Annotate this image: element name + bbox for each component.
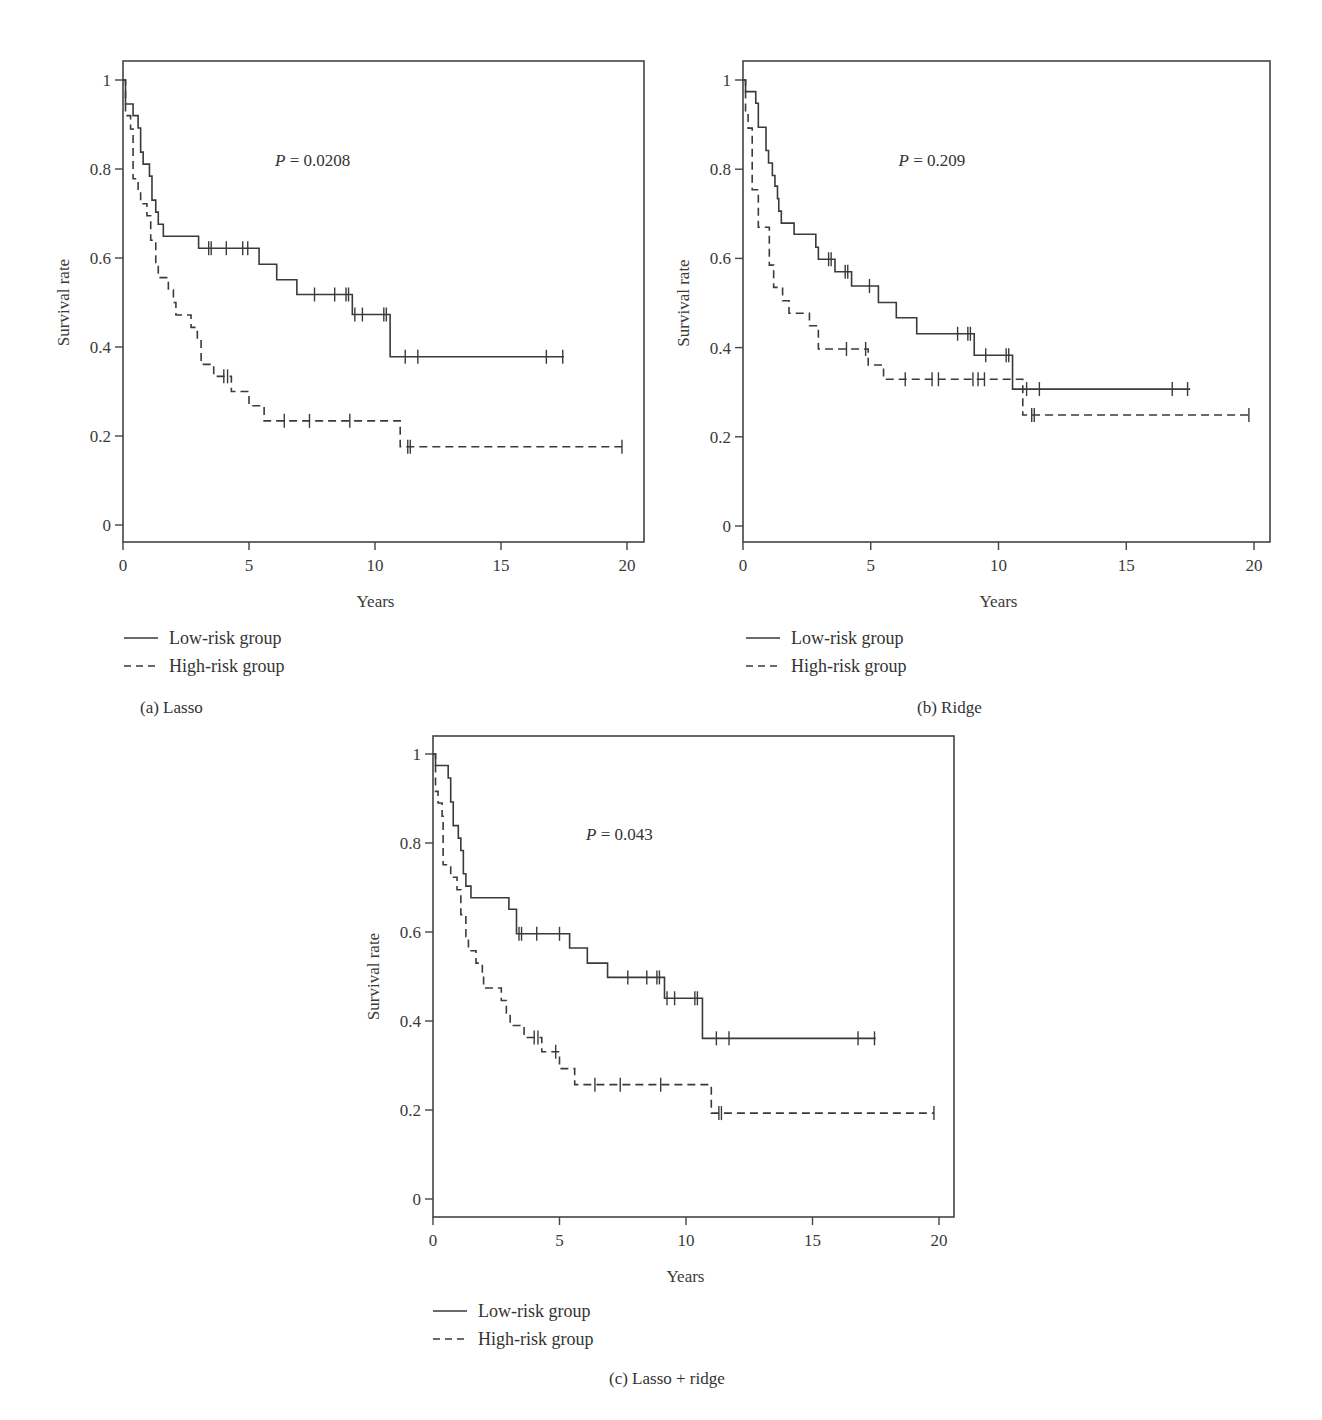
y-tick-label: 0.6 (400, 923, 421, 942)
y-tick-label: 1 (723, 71, 732, 90)
y-tick-label: 1 (413, 745, 422, 764)
y-tick-label: 0.8 (710, 160, 731, 179)
x-axis-title: Years (980, 592, 1018, 611)
x-tick-label: 20 (619, 556, 636, 575)
legend: Low-risk groupHigh-risk group (433, 1301, 594, 1349)
legend: Low-risk groupHigh-risk group (124, 628, 285, 676)
legend-low-risk-label: Low-risk group (169, 628, 281, 648)
y-tick-label: 0.2 (710, 428, 731, 447)
x-tick-label: 10 (678, 1231, 695, 1250)
legend: Low-risk groupHigh-risk group (746, 628, 907, 676)
y-tick-label: 0 (413, 1190, 422, 1209)
y-tick-label: 0.4 (710, 339, 732, 358)
low-risk-curve (743, 80, 1190, 389)
chart-panel-c: 00.20.40.60.8105101520YearsSurvival rate… (364, 736, 954, 1388)
chart-panel-b: 00.20.40.60.8105101520YearsSurvival rate… (674, 61, 1270, 717)
x-axis-title: Years (357, 592, 395, 611)
plot-frame (743, 61, 1270, 542)
panel-caption: (b) Ridge (917, 698, 982, 717)
x-tick-label: 20 (1246, 556, 1263, 575)
p-value-annotation: P = 0.0208 (274, 151, 350, 170)
x-tick-label: 5 (867, 556, 876, 575)
x-tick-label: 10 (990, 556, 1007, 575)
p-value-annotation: P = 0.209 (898, 151, 966, 170)
x-tick-label: 5 (245, 556, 254, 575)
panel-caption: (c) Lasso + ridge (609, 1369, 725, 1388)
legend-high-risk-label: High-risk group (478, 1329, 594, 1349)
y-axis-title: Survival rate (674, 259, 693, 346)
y-tick-label: 0.6 (710, 249, 731, 268)
y-tick-label: 0 (103, 516, 112, 535)
y-tick-label: 0 (723, 517, 732, 536)
chart-panel-a: 00.20.40.60.8105101520YearsSurvival rate… (54, 61, 644, 717)
x-tick-label: 5 (555, 1231, 564, 1250)
x-tick-label: 0 (739, 556, 748, 575)
plot-frame (433, 736, 954, 1217)
x-tick-label: 15 (804, 1231, 821, 1250)
y-tick-label: 0.2 (90, 427, 111, 446)
high-risk-curve (123, 80, 622, 447)
y-tick-label: 0.6 (90, 249, 111, 268)
y-axis-title: Survival rate (54, 259, 73, 346)
y-tick-label: 0.4 (90, 338, 112, 357)
legend-high-risk-label: High-risk group (169, 656, 285, 676)
y-tick-label: 0.8 (400, 834, 421, 853)
x-tick-label: 0 (119, 556, 128, 575)
legend-low-risk-label: Low-risk group (478, 1301, 590, 1321)
x-tick-label: 15 (493, 556, 510, 575)
high-risk-curve (433, 754, 934, 1113)
legend-high-risk-label: High-risk group (791, 656, 907, 676)
x-tick-label: 15 (1118, 556, 1135, 575)
x-tick-label: 10 (367, 556, 384, 575)
y-tick-label: 0.2 (400, 1101, 421, 1120)
x-tick-label: 0 (429, 1231, 438, 1250)
x-axis-title: Years (667, 1267, 705, 1286)
p-value-annotation: P = 0.043 (585, 825, 653, 844)
km-survival-figure: 00.20.40.60.8105101520YearsSurvival rate… (0, 0, 1322, 1420)
low-risk-curve (433, 754, 876, 1038)
y-axis-title: Survival rate (364, 933, 383, 1020)
y-tick-label: 1 (103, 71, 112, 90)
x-tick-label: 20 (931, 1231, 948, 1250)
y-tick-label: 0.8 (90, 160, 111, 179)
y-tick-label: 0.4 (400, 1012, 422, 1031)
panel-caption: (a) Lasso (140, 698, 203, 717)
plot-frame (123, 61, 644, 542)
legend-low-risk-label: Low-risk group (791, 628, 903, 648)
